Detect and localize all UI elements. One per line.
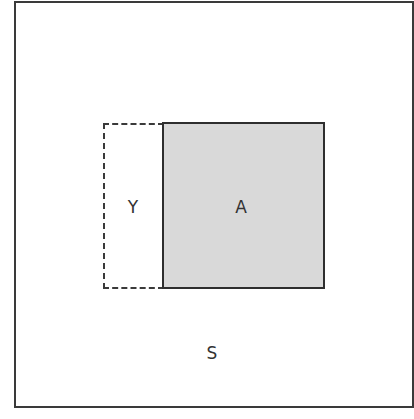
- outer-region-s-label: S: [207, 345, 218, 362]
- region-y-label: Y: [128, 199, 138, 216]
- region-a-label: A: [235, 199, 247, 216]
